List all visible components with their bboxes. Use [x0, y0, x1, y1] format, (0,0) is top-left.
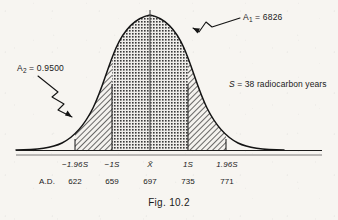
year-label-622: 622: [68, 177, 82, 186]
annotation-a2-value: = 0.9500: [27, 63, 65, 73]
annotation-a1-value: = 6826: [253, 12, 283, 22]
axis-label-ad-prefix: A.D.: [39, 177, 55, 186]
annotation-a2-label: A2 = 0.9500: [17, 64, 64, 74]
annotation-standard-deviation-note: S = 38 radiocarbon years: [229, 80, 327, 89]
year-label-735: 735: [181, 177, 195, 186]
annotation-a1-label: A1 = 6826: [243, 13, 283, 23]
tick-label-pos1s: 1S: [183, 160, 193, 169]
figure-caption: Fig. 10.2: [0, 197, 338, 208]
leader-line-a1: [193, 18, 240, 34]
figure-page: A1 = 6826 A2 = 0.9500 S = 38 radiocarbon…: [0, 0, 338, 220]
tick-label-mean: X̄: [147, 160, 152, 169]
year-label-659: 659: [105, 177, 119, 186]
tick-label-neg196s: −1.96S: [62, 160, 88, 169]
year-label-771: 771: [220, 177, 234, 186]
normal-distribution-chart: [0, 0, 338, 220]
tick-label-pos196s: 1.96S: [216, 160, 237, 169]
year-label-697: 697: [143, 177, 157, 186]
leader-line-a2: [38, 76, 72, 117]
annotation-s-text: = 38 radiocarbon years: [235, 79, 327, 89]
tick-label-neg1s: −1S: [105, 160, 120, 169]
